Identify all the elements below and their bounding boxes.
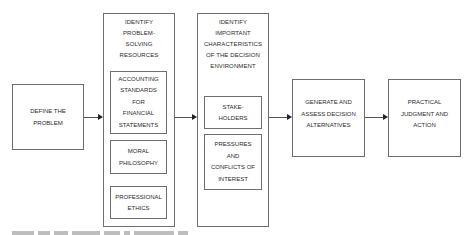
moral-philosophy-box: MORAL PHILOSOPHY [110,140,167,174]
practical-judgment-box: PRACTICAL JUDGMENT AND ACTION [388,79,461,157]
arrow-resources-to-environment [175,117,196,118]
stakeholders-label: STAKE- HOLDERS [205,101,261,124]
moral-philosophy-label: MORAL PHILOSOPHY [111,146,166,169]
arrow-environment-to-generate [269,117,291,118]
clipped-caption [12,231,262,235]
arrow-define-to-resources [84,117,102,118]
define-problem-box: DEFINE THE PROBLEM [12,84,84,150]
pressures-conflicts-label: PRESSURES AND CONFLICTS OF INTEREST [205,139,261,185]
pressures-conflicts-box: PRESSURES AND CONFLICTS OF INTEREST [204,134,262,190]
arrow-generate-to-practical [365,117,387,118]
professional-ethics-box: PROFESSIONAL ETHICS [110,186,167,219]
stakeholders-box: STAKE- HOLDERS [204,96,262,129]
practical-judgment-label: PRACTICAL JUDGMENT AND ACTION [389,97,460,132]
resources-heading: IDENTIFY PROBLEM- SOLVING RESOURCES [104,17,174,61]
accounting-standards-label: ACCOUNTING STANDARDS FOR FINANCIAL STATE… [111,74,166,132]
generate-alternatives-label: GENERATE AND ASSESS DECISION ALTERNATIVE… [293,97,364,132]
professional-ethics-label: PROFESSIONAL ETHICS [111,191,166,214]
accounting-standards-box: ACCOUNTING STANDARDS FOR FINANCIAL STATE… [110,71,167,134]
environment-heading: IDENTIFY IMPORTANT CHARACTERISTICS OF TH… [198,17,268,72]
generate-alternatives-box: GENERATE AND ASSESS DECISION ALTERNATIVE… [292,79,365,157]
define-problem-label: DEFINE THE PROBLEM [13,106,83,129]
